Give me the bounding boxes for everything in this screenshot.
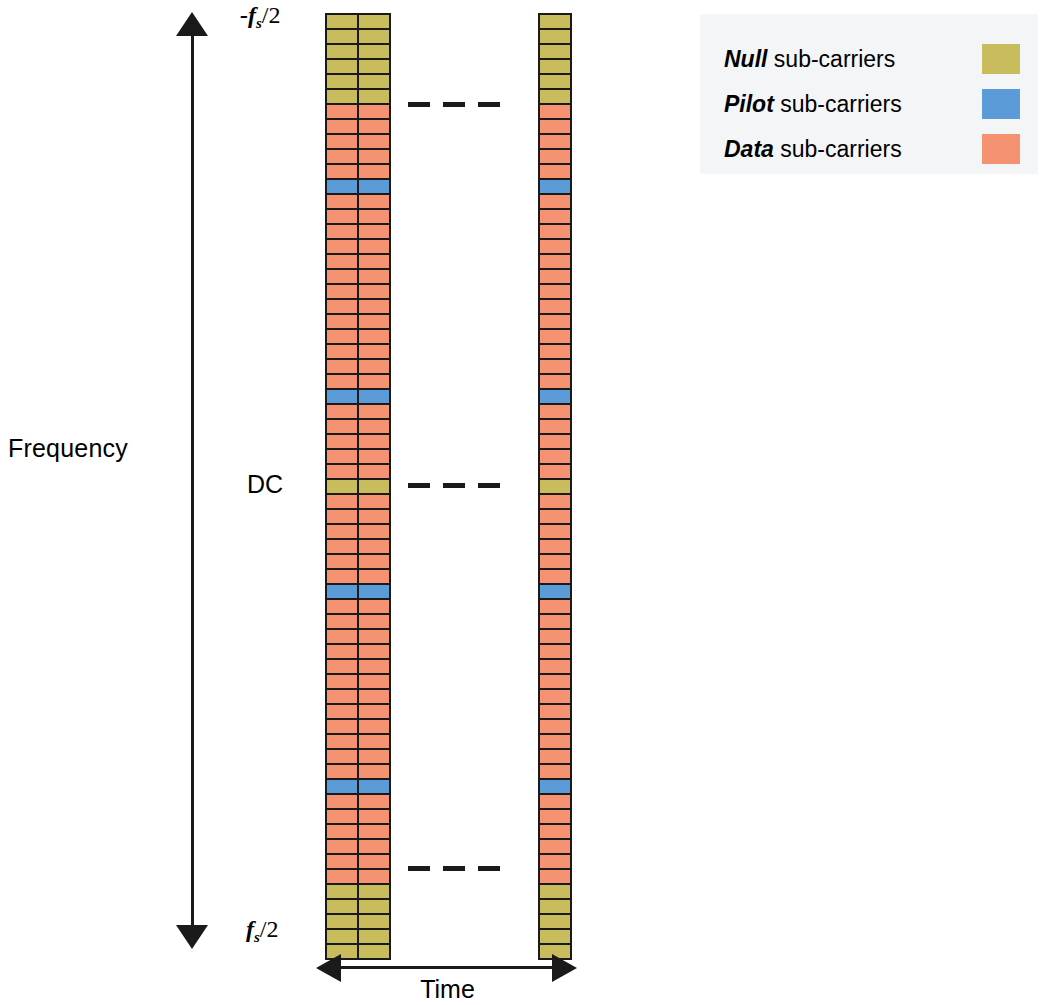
subcarrier-cell-data	[359, 525, 389, 540]
subcarrier-cell-data	[359, 240, 389, 255]
subcarrier-cell-data	[359, 855, 389, 870]
subcarrier-cell-data	[540, 855, 570, 870]
subcarrier-cell-null	[359, 885, 389, 900]
subcarrier-cell-data	[327, 105, 357, 120]
frequency-axis-arrow-down	[176, 925, 208, 949]
subcarrier-cell-data	[327, 495, 357, 510]
subcarrier-cell-data	[540, 420, 570, 435]
subcarrier-cell-null	[540, 75, 570, 90]
subcarrier-cell-data	[327, 120, 357, 135]
subcarrier-column	[540, 15, 570, 958]
subcarrier-cell-data	[540, 810, 570, 825]
legend-suffix-data: sub-carriers	[774, 136, 902, 162]
subcarrier-cell-null	[540, 15, 570, 30]
subcarrier-cell-data	[540, 645, 570, 660]
subcarrier-cell-data	[327, 690, 357, 705]
bottom-frequency-tick-label: fs/2	[246, 916, 279, 946]
subcarrier-cell-data	[359, 600, 389, 615]
subcarrier-cell-data	[359, 465, 389, 480]
subcarrier-cell-data	[327, 645, 357, 660]
subcarrier-cell-data	[359, 705, 389, 720]
subcarrier-cell-data	[327, 300, 357, 315]
subcarrier-cell-data	[359, 270, 389, 285]
subcarrier-cell-null	[540, 90, 570, 105]
legend-item-null: Null sub-carriers	[724, 42, 1020, 76]
legend-label-pilot: Pilot sub-carriers	[724, 91, 902, 118]
subcarrier-cell-data	[359, 135, 389, 150]
subcarrier-cell-null	[540, 45, 570, 60]
subcarrier-cell-pilot	[540, 180, 570, 195]
subcarrier-cell-data	[359, 420, 389, 435]
subcarrier-cell-data	[359, 435, 389, 450]
subcarrier-cell-data	[327, 375, 357, 390]
subcarrier-cell-data	[327, 510, 357, 525]
subcarrier-cell-data	[540, 660, 570, 675]
subcarrier-cell-pilot	[327, 180, 357, 195]
dc-label: DC	[247, 470, 283, 499]
subcarrier-cell-data	[359, 330, 389, 345]
subcarrier-cell-null	[540, 915, 570, 930]
subcarrier-cell-data	[327, 795, 357, 810]
dash-icon	[408, 102, 430, 107]
subcarrier-cell-data	[359, 210, 389, 225]
subcarrier-cell-null	[359, 930, 389, 945]
dash-icon	[443, 102, 465, 107]
subcarrier-cell-data	[359, 345, 389, 360]
subcarrier-cell-data	[540, 690, 570, 705]
subcarrier-cell-data	[359, 255, 389, 270]
subcarrier-cell-data	[327, 405, 357, 420]
frequency-axis-label: Frequency	[8, 434, 128, 463]
top-tick-symbol: f	[248, 2, 256, 28]
subcarrier-cell-data	[359, 540, 389, 555]
subcarrier-grid-last-symbol	[538, 13, 572, 960]
subcarrier-cell-null	[359, 90, 389, 105]
subcarrier-cell-data	[540, 225, 570, 240]
subcarrier-cell-data	[359, 555, 389, 570]
subcarrier-cell-data	[359, 825, 389, 840]
subcarrier-cell-pilot	[540, 390, 570, 405]
legend-item-pilot: Pilot sub-carriers	[724, 87, 1020, 121]
subcarrier-cell-data	[540, 330, 570, 345]
subcarrier-cell-null	[359, 480, 389, 495]
subcarrier-cell-data	[359, 315, 389, 330]
subcarrier-cell-data	[540, 255, 570, 270]
subcarrier-cell-data	[359, 165, 389, 180]
legend-suffix-pilot: sub-carriers	[774, 91, 902, 117]
subcarrier-column	[327, 15, 357, 958]
legend-emphasis-null: Null	[724, 46, 767, 72]
subcarrier-cell-data	[540, 570, 570, 585]
legend-label-null: Null sub-carriers	[724, 46, 895, 73]
frequency-axis-line	[191, 30, 194, 930]
subcarrier-cell-data	[359, 195, 389, 210]
subcarrier-cell-data	[327, 555, 357, 570]
subcarrier-cell-null	[327, 90, 357, 105]
subcarrier-cell-data	[327, 435, 357, 450]
subcarrier-cell-data	[327, 210, 357, 225]
subcarrier-cell-null	[540, 930, 570, 945]
subcarrier-cell-data	[327, 810, 357, 825]
subcarrier-cell-data	[327, 285, 357, 300]
ofdm-subcarrier-figure: Frequency -fs/2 DC fs/2 Time Null sub-ca…	[0, 0, 1055, 1005]
ellipsis-dashes-top	[408, 102, 500, 107]
subcarrier-cell-data	[359, 795, 389, 810]
subcarrier-cell-data	[327, 750, 357, 765]
legend: Null sub-carriers Pilot sub-carriers Dat…	[700, 14, 1038, 174]
subcarrier-cell-null	[327, 915, 357, 930]
subcarrier-cell-data	[359, 675, 389, 690]
subcarrier-cell-data	[327, 540, 357, 555]
subcarrier-cell-data	[540, 840, 570, 855]
subcarrier-cell-data	[327, 345, 357, 360]
subcarrier-cell-data	[540, 135, 570, 150]
subcarrier-cell-data	[540, 270, 570, 285]
subcarrier-cell-data	[327, 855, 357, 870]
subcarrier-cell-data	[540, 510, 570, 525]
subcarrier-cell-data	[327, 255, 357, 270]
subcarrier-cell-data	[540, 540, 570, 555]
time-axis-line	[338, 966, 556, 969]
subcarrier-cell-data	[540, 165, 570, 180]
subcarrier-cell-data	[359, 510, 389, 525]
subcarrier-cell-data	[540, 525, 570, 540]
subcarrier-cell-data	[540, 720, 570, 735]
subcarrier-cell-data	[327, 615, 357, 630]
subcarrier-cell-data	[327, 570, 357, 585]
